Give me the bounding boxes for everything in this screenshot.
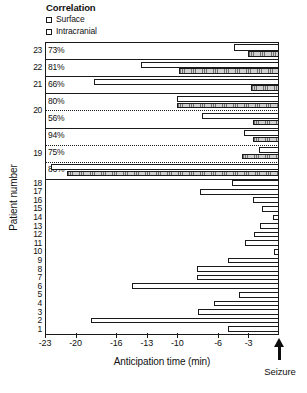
- y-tick-label-patient-20: 20: [33, 106, 42, 115]
- patient-separator: [45, 59, 279, 60]
- bar-surface-p12: [254, 232, 279, 238]
- bar-surface-p17: [200, 189, 279, 195]
- y-tick-label-patient-19: 19: [33, 149, 42, 158]
- bar-intracranial-p23-s1: [248, 51, 279, 57]
- y-tick-label-patient-22: 22: [33, 63, 42, 72]
- bar-surface-p10: [274, 249, 279, 255]
- x-tick-label--13: -13: [141, 338, 153, 348]
- y-tick-label-patient-23: 23: [33, 46, 42, 55]
- bar-surface-p2: [91, 318, 279, 324]
- seizure-separator: [45, 145, 279, 146]
- bar-surface-p20-s1: [177, 96, 279, 102]
- legend-label-intracranial: Intracranial: [56, 27, 97, 36]
- x-axis-tick-labels: -23-20-16-13-10-6-3: [0, 333, 307, 347]
- bar-surface-p4: [214, 301, 279, 307]
- y-axis-title: Patient number: [8, 148, 19, 248]
- correlation-label-p20-s1: 80%: [48, 97, 64, 106]
- intracranial-swatch-icon: [46, 29, 52, 35]
- correlation-label-p22-s1: 81%: [48, 63, 64, 72]
- correlation-label-p23-s1: 73%: [48, 46, 64, 55]
- x-tick-label--20: -20: [69, 338, 81, 348]
- bar-surface-p23-s1: [234, 44, 279, 50]
- bar-surface-p8: [197, 266, 279, 272]
- bar-surface-p6: [132, 283, 279, 289]
- x-axis-title: Anticipation time (min): [45, 356, 279, 367]
- x-tick-label--3: -3: [245, 338, 253, 348]
- bar-surface-p3: [198, 309, 279, 315]
- legend-item-surface: Surface: [46, 14, 97, 25]
- correlation-label-p19-s2: 75%: [48, 148, 64, 157]
- bar-surface-p22-s1: [141, 62, 279, 68]
- x-tick-label--16: -16: [110, 338, 122, 348]
- bar-surface-p11: [245, 240, 279, 246]
- bar-intracranial-p21-s1: [251, 85, 279, 91]
- seizure-separator: [45, 162, 279, 163]
- patient-separator: [45, 128, 279, 129]
- x-tick-label--6: -6: [214, 338, 222, 348]
- patient-separator: [45, 93, 279, 94]
- anticipation-time-bar-chart: Correlation Surface Intracranial 2322212…: [0, 0, 307, 393]
- bar-surface-p9: [228, 258, 279, 264]
- correlation-label-p20-s2: 56%: [48, 114, 64, 123]
- bar-intracranial-p19-s3: [67, 171, 279, 177]
- bar-surface-p19-s1: [244, 130, 279, 136]
- bar-surface-p5: [239, 292, 279, 298]
- legend-item-intracranial: Intracranial: [46, 26, 97, 37]
- chart-legend: Correlation Surface Intracranial: [46, 2, 97, 37]
- x-tick-label--23: -23: [39, 338, 51, 348]
- correlation-label-p21-s1: 66%: [48, 80, 64, 89]
- bar-surface-p14: [273, 215, 279, 221]
- seizure-separator: [45, 110, 279, 111]
- seizure-label: Seizure: [252, 366, 307, 377]
- legend-label-surface: Surface: [56, 15, 85, 24]
- bar-intracranial-p20-s2: [253, 120, 279, 126]
- up-arrow-icon: [274, 338, 285, 360]
- bar-surface-p20-s2: [202, 113, 279, 119]
- bar-intracranial-p22-s1: [179, 68, 279, 74]
- bar-surface-p13: [260, 223, 279, 229]
- bar-surface-p18: [232, 180, 279, 186]
- bar-surface-p1: [228, 326, 279, 332]
- bar-surface-p19-s2: [259, 147, 279, 153]
- x-tick-label--10: -10: [171, 338, 183, 348]
- y-axis-tick-labels: 2322212019181716151413121110987654321: [0, 42, 42, 334]
- bar-surface-p16: [253, 197, 279, 203]
- legend-title: Correlation: [46, 2, 97, 13]
- bar-surface-p7: [197, 275, 279, 281]
- y-tick-label-patient-21: 21: [33, 80, 42, 89]
- correlation-label-p19-s1: 94%: [48, 131, 64, 140]
- bar-intracranial-p19-s1: [253, 137, 279, 143]
- bar-surface-p15: [262, 206, 279, 212]
- bar-surface-p21-s1: [94, 79, 279, 85]
- patient-separator: [45, 76, 279, 77]
- bar-intracranial-p19-s2: [242, 154, 279, 160]
- bar-surface-p19-s3: [51, 164, 279, 170]
- bar-intracranial-p20-s1: [177, 103, 279, 109]
- surface-swatch-icon: [46, 17, 52, 23]
